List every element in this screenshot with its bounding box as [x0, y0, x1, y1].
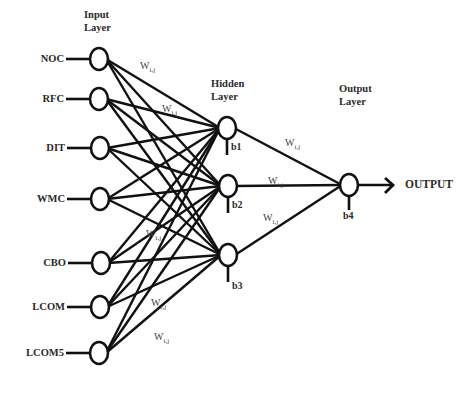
input-label-cbo: CBO	[43, 256, 66, 269]
input-neuron-cbo	[92, 252, 110, 274]
input-label-rfc: RFC	[42, 92, 64, 105]
hidden-layer-title-line2: Layer	[211, 90, 244, 103]
output-layer-title: Output Layer	[339, 82, 372, 108]
weight-label: Wi,j	[140, 60, 155, 74]
output-layer-title-line1: Output	[339, 82, 372, 95]
bias-label-b2: b2	[232, 199, 243, 210]
hidden-layer-title-line1: Hidden	[211, 77, 244, 90]
input-label-lcom: LCOM	[32, 300, 65, 313]
hidden-layer-title: Hidden Layer	[211, 77, 244, 103]
weight-label: Wi,j	[146, 228, 161, 242]
input-neuron-lcom5	[90, 342, 108, 364]
input-layer-title-line1: Input	[84, 8, 111, 21]
connection-lines	[106, 59, 342, 353]
input-layer-title: Input Layer	[84, 8, 111, 34]
input-layer-title-line2: Layer	[84, 21, 111, 34]
input-neuron-lcom	[91, 296, 109, 318]
weight-label: Wi,j	[154, 331, 169, 345]
input-label-noc: NOC	[41, 52, 64, 65]
hidden-neuron-2	[219, 175, 237, 197]
input-neuron-dit	[91, 137, 109, 159]
bias-label-b3: b3	[232, 280, 243, 291]
hidden-neuron-1	[218, 117, 236, 139]
bias-label-b1: b1	[231, 141, 242, 152]
weight-label: Wi,j	[162, 103, 177, 117]
bias-label-b4: b4	[343, 210, 354, 221]
output-label: OUTPUT	[405, 178, 453, 191]
weight-label: Wi,j	[285, 137, 300, 151]
weight-label: Wi,j	[151, 297, 166, 311]
output-layer-title-line2: Layer	[339, 95, 372, 108]
weight-edge-input-0-hidden-0	[106, 59, 220, 128]
output-neuron	[340, 174, 358, 196]
weight-edge-hidden-1-output	[235, 185, 342, 186]
weight-label: Wi,j	[263, 212, 278, 226]
input-neuron-noc	[90, 48, 108, 70]
hidden-neuron-3	[219, 244, 237, 266]
weight-edge-input-4-hidden-0	[108, 128, 220, 263]
weight-label: Wi,j	[268, 175, 283, 189]
weight-edge-hidden-2-output	[235, 185, 342, 255]
output-arrow	[358, 178, 393, 193]
input-label-wmc: WMC	[37, 192, 65, 205]
input-neuron-wmc	[91, 188, 109, 210]
input-neuron-rfc	[90, 88, 108, 110]
input-label-dit: DIT	[46, 141, 65, 154]
input-label-lcom5: LCOM5	[26, 346, 64, 359]
